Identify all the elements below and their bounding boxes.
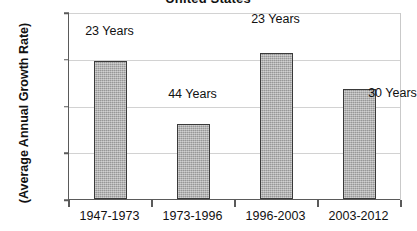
bar[interactable] bbox=[343, 89, 376, 199]
bar-value-label: 44 Years bbox=[168, 87, 217, 101]
x-tick-mark bbox=[151, 200, 153, 207]
x-tick-mark bbox=[317, 200, 319, 207]
bar-series bbox=[69, 13, 400, 199]
bar[interactable] bbox=[94, 61, 127, 199]
x-tick-mark bbox=[400, 200, 402, 207]
x-tick-mark bbox=[234, 200, 236, 207]
bar[interactable] bbox=[177, 124, 210, 199]
bar-band bbox=[69, 13, 152, 199]
y-axis-title: (Average Annual Growth Rate) bbox=[17, 13, 31, 213]
bar-band bbox=[152, 13, 235, 199]
bar-band bbox=[235, 13, 318, 199]
bar-value-label: 23 Years bbox=[251, 12, 300, 26]
bar-value-label: 30 Years bbox=[368, 86, 417, 100]
bar[interactable] bbox=[260, 53, 293, 199]
bar-value-label: 23 Years bbox=[85, 24, 134, 38]
plot-area bbox=[68, 13, 400, 200]
x-tick-mark bbox=[68, 200, 70, 207]
bar-band bbox=[318, 13, 401, 199]
x-tick-label: 2003-2012 bbox=[304, 209, 414, 223]
chart-title: United States bbox=[0, 0, 416, 6]
